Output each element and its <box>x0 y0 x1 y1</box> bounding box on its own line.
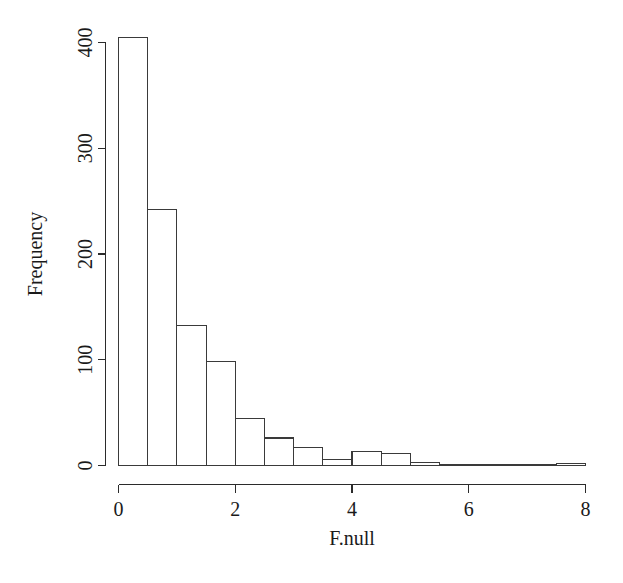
x-axis-tick-label: 6 <box>464 498 474 520</box>
histogram-bar <box>352 452 381 466</box>
x-axis-tick-label: 0 <box>114 498 124 520</box>
histogram-figure: 0100200300400 02468 F.nullFrequency <box>0 0 623 583</box>
y-axis-tick-label: 400 <box>74 28 96 58</box>
x-axis-tick-label: 8 <box>581 498 591 520</box>
histogram-bar <box>206 362 235 466</box>
y-axis: 0100200300400 <box>74 28 105 471</box>
histogram-bar <box>527 465 556 466</box>
histogram-bar <box>148 210 177 466</box>
y-axis-tick-label: 100 <box>74 345 96 375</box>
x-axis-tick-label: 4 <box>347 498 357 520</box>
histogram-bar <box>440 464 469 465</box>
plot-area: 0100200300400 02468 F.nullFrequency <box>0 0 623 583</box>
y-axis-tick-label: 300 <box>74 133 96 163</box>
histogram-bar <box>556 463 585 465</box>
histogram-bar <box>177 326 206 466</box>
histogram-bar <box>119 37 148 465</box>
bars-group <box>119 37 586 465</box>
histogram-bar <box>235 419 264 466</box>
histogram-bar <box>381 454 410 466</box>
histogram-bar <box>410 462 439 465</box>
x-axis-tick-label: 2 <box>230 498 240 520</box>
y-axis-title: Frequency <box>24 212 47 296</box>
histogram-canvas: 0100200300400 02468 F.nullFrequency <box>0 0 623 583</box>
histogram-bar <box>323 459 352 465</box>
histogram-bar <box>264 438 293 466</box>
histogram-bar <box>294 448 323 466</box>
histogram-bar <box>498 465 527 466</box>
x-axis-title: F.null <box>329 527 375 549</box>
y-axis-tick-label: 200 <box>74 239 96 269</box>
histogram-bar <box>469 465 498 466</box>
x-axis: 02468 <box>114 485 591 520</box>
y-axis-tick-label: 0 <box>74 461 96 471</box>
